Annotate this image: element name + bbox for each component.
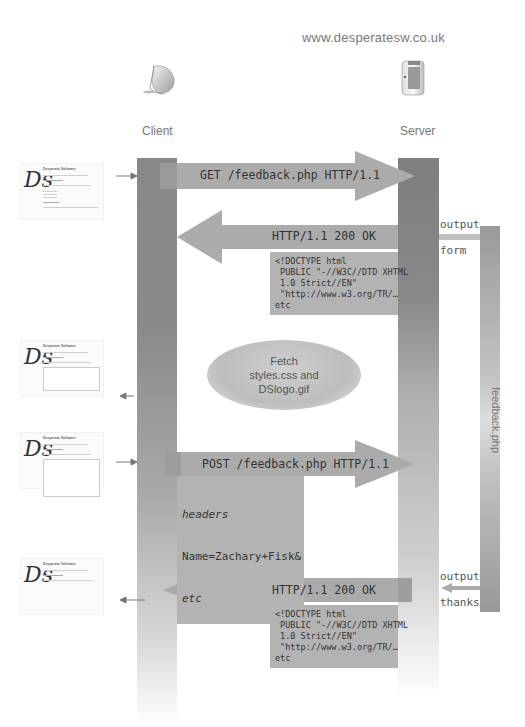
output-form-line2: form <box>440 244 467 257</box>
post-headers: headers <box>182 508 299 522</box>
thumbnail-link-page: Ds Desperate Software <box>20 163 104 220</box>
thumbnail-title: Desperate Software <box>43 436 76 440</box>
thumbnail-filled-form: Ds Desperate Software <box>20 432 104 489</box>
thanks-response-label: HTTP/1.1 200 OK <box>272 583 376 597</box>
output-form-connector <box>439 234 480 240</box>
get-request-label: GET /feedback.php HTTP/1.1 <box>200 168 380 182</box>
thumbnail-title: Desperate Software <box>43 344 76 348</box>
thumbnail-feedback-form: Ds Desperate Software <box>20 340 104 397</box>
thumbnail-arrows <box>116 173 145 603</box>
output-thanks-line1: output <box>440 570 480 583</box>
output-thanks-line2: thanks <box>440 596 480 609</box>
form-response-body: <!DOCTYPE html PUBLIC "-//W3C//DTD XHTML… <box>270 252 398 315</box>
fetch-note-text: Fetch styles.css and DSlogo.gif <box>249 354 318 396</box>
post-form-data: Name=Zachary+Fisk& <box>182 550 299 564</box>
post-request-body: headers Name=Zachary+Fisk& etc <box>177 476 304 624</box>
fetch-note: Fetch styles.css and DSlogo.gif <box>207 340 361 410</box>
form-response-label: HTTP/1.1 200 OK <box>272 229 376 243</box>
output-form-line1: output <box>440 218 480 231</box>
thumbnail-title: Desperate Software <box>43 167 76 171</box>
thumbnail-thanks-page: Ds Desperate Software <box>20 558 104 615</box>
post-request-label: POST /feedback.php HTTP/1.1 <box>202 457 389 471</box>
thanks-response-body: <!DOCTYPE html PUBLIC "-//W3C//DTD XHTML… <box>270 605 398 668</box>
thumbnail-title: Desperate Software <box>43 562 76 566</box>
output-thanks-connector <box>441 583 480 593</box>
